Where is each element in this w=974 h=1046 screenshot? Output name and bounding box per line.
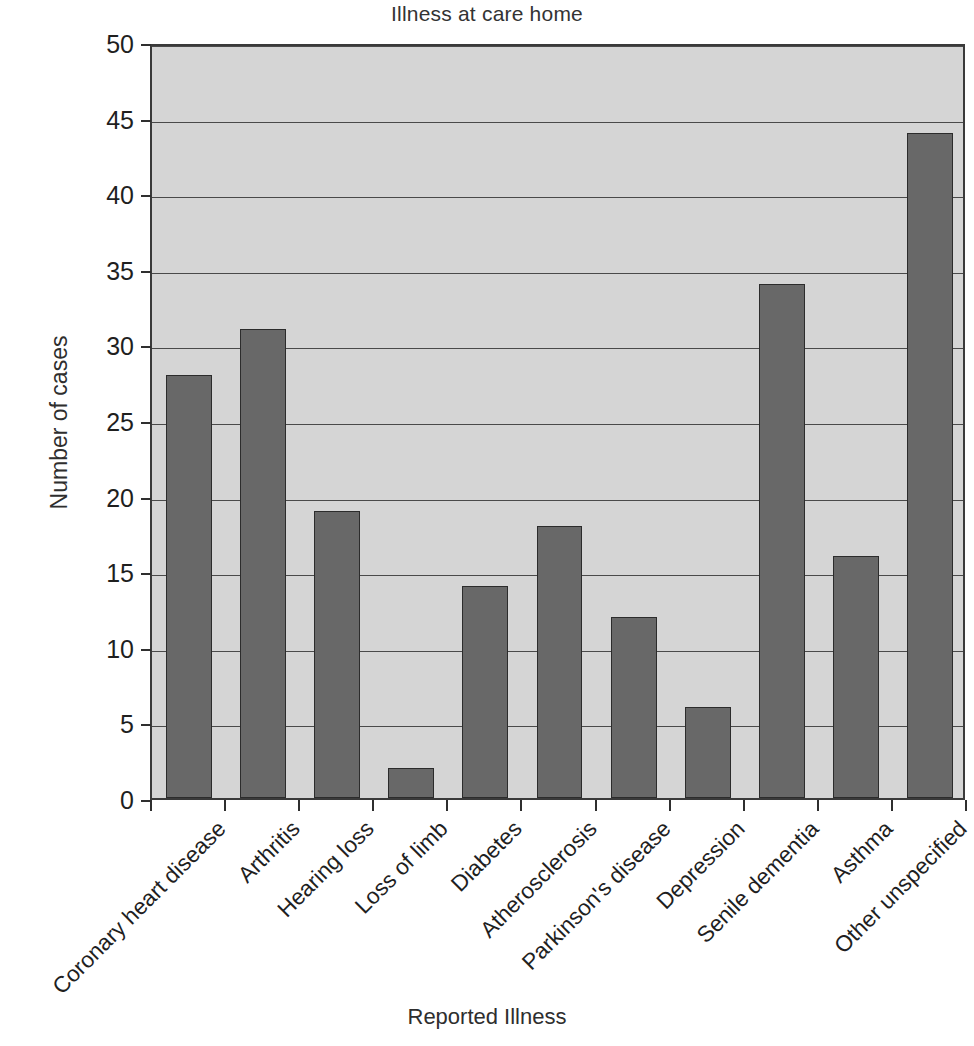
x-axis-tick-label-text: Arthritis — [233, 816, 305, 888]
x-axis-tick-label: Arthritis — [233, 816, 305, 888]
x-axis-tick-label: Other unspecified — [829, 816, 972, 959]
y-axis-tick — [141, 724, 151, 726]
x-axis-tick-label: Asthma — [826, 816, 898, 888]
y-axis-tick — [141, 649, 151, 651]
x-axis-tick — [965, 800, 967, 811]
x-axis-tick-labels: Coronary heart diseaseArthritisHearing l… — [0, 0, 974, 1046]
x-axis-tick — [446, 800, 448, 811]
x-axis-title: Reported Illness — [0, 1004, 974, 1030]
x-axis-tick — [817, 800, 819, 811]
x-axis-tick — [891, 800, 893, 811]
x-axis-tick-label: Coronary heart disease — [48, 816, 232, 1000]
y-axis-tick — [141, 346, 151, 348]
x-axis-tick-label-text: Other unspecified — [829, 816, 972, 959]
y-axis-tick — [141, 44, 151, 46]
x-axis-tick — [224, 800, 226, 811]
x-axis-tick — [150, 800, 152, 811]
x-axis-tick — [520, 800, 522, 811]
x-axis-tick — [298, 800, 300, 811]
y-axis-tick — [141, 271, 151, 273]
y-axis-tick — [141, 422, 151, 424]
x-axis-tick — [669, 800, 671, 811]
y-axis-tick — [141, 195, 151, 197]
x-axis-tick — [595, 800, 597, 811]
x-axis-tick — [372, 800, 374, 811]
x-axis-tick — [743, 800, 745, 811]
x-axis-tick-label-text: Coronary heart disease — [48, 816, 232, 1000]
y-axis-tick — [141, 120, 151, 122]
y-axis-tick — [141, 573, 151, 575]
y-axis-tick — [141, 498, 151, 500]
bar-chart-figure: Illness at care home Number of cases 051… — [0, 0, 974, 1046]
x-axis-tick-label-text: Asthma — [826, 816, 898, 888]
